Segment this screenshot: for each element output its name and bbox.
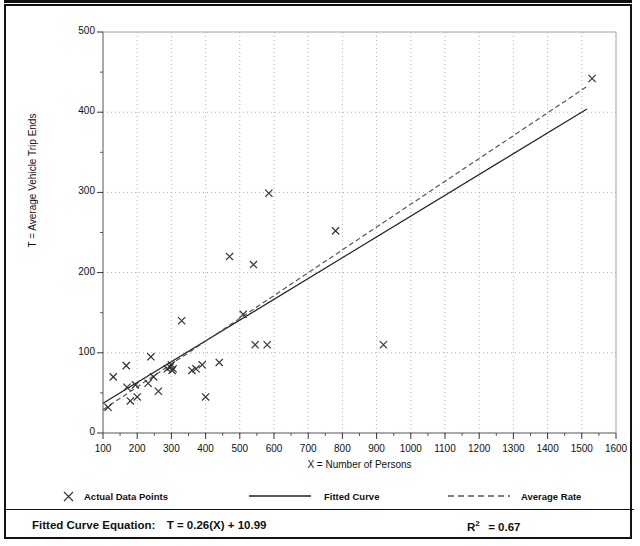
chart-legend: Actual Data Points Fitted Curve Average …	[0, 487, 640, 509]
plot-container: 0100200300400500 10020030040050060070080…	[0, 0, 640, 546]
y-tick-label-300: 300	[55, 185, 95, 196]
solid-line-icon	[249, 489, 315, 503]
data-point-marker	[134, 393, 141, 400]
data-point-marker	[110, 373, 117, 380]
data-point-marker	[147, 353, 154, 360]
data-point-marker	[155, 388, 162, 395]
legend-label-fitted-curve: Fitted Curve	[324, 491, 379, 502]
y-axis-title: T = Average Vehicle Trip Ends	[27, 81, 38, 281]
data-point-marker	[127, 397, 134, 404]
equation-label: Fitted Curve Equation:	[32, 519, 155, 531]
x-axis-title: X = Number of Persons	[103, 459, 616, 470]
y-tick-label-100: 100	[55, 346, 95, 357]
grid-layer	[103, 32, 616, 433]
data-point-marker	[380, 341, 387, 348]
data-point-marker	[199, 361, 206, 368]
y-tick-label-400: 400	[55, 105, 95, 116]
data-point-marker	[265, 190, 272, 197]
legend-label-average-rate: Average Rate	[521, 491, 581, 502]
axes-layer	[103, 32, 616, 433]
data-point-marker	[178, 317, 185, 324]
data-point-marker	[332, 227, 339, 234]
data-point-marker	[588, 75, 595, 82]
legend-label-actual-data-points: Actual Data Points	[84, 491, 168, 502]
equation-value: T = 0.26(X) + 10.99	[167, 519, 267, 531]
x-tick-label-1600: 1600	[596, 443, 636, 454]
data-point-marker	[202, 393, 209, 400]
data-point-marker	[252, 341, 259, 348]
data-point-marker	[216, 359, 223, 366]
fitted-curve-line	[103, 109, 587, 403]
chart-page: 0100200300400500 10020030040050060070080…	[0, 0, 640, 546]
dashed-line-icon	[448, 489, 514, 503]
r-squared-value: R2 = 0.67	[467, 519, 520, 533]
average-rate-line	[103, 87, 587, 410]
data-point-marker	[226, 253, 233, 260]
r-squared-number: = 0.67	[488, 521, 520, 533]
trend-lines-layer	[103, 87, 587, 410]
r-squared-exponent: 2	[475, 519, 479, 528]
data-point-marker	[145, 380, 152, 387]
y-tick-label-0: 0	[55, 426, 95, 437]
axis-ticks-layer	[97, 32, 616, 439]
data-point-marker	[264, 341, 271, 348]
x-marker-icon	[60, 489, 78, 503]
data-points-layer	[105, 75, 596, 411]
data-point-marker	[250, 261, 257, 268]
data-point-marker	[150, 373, 157, 380]
y-tick-label-200: 200	[55, 266, 95, 277]
equation-footer: Fitted Curve Equation: T = 0.26(X) + 10.…	[0, 515, 640, 541]
fitted-curve-equation: Fitted Curve Equation: T = 0.26(X) + 10.…	[32, 519, 266, 531]
y-tick-label-500: 500	[55, 25, 95, 36]
data-point-marker	[123, 362, 130, 369]
legend-separator	[6, 509, 634, 510]
